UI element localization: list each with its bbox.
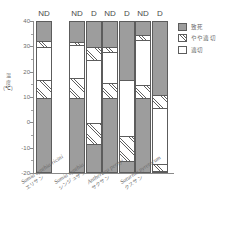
legend-swatch-suitable [178, 46, 187, 54]
bar-segment-divider [37, 47, 51, 48]
bar-segment-suitable [70, 45, 84, 78]
stacked-bar [102, 21, 118, 173]
bar-segment-lethal [103, 22, 117, 47]
bar-segment-suitable [120, 80, 134, 136]
bar-segment-divider [153, 95, 167, 96]
bar-segment-partial [103, 83, 117, 98]
stacked-bar [69, 21, 85, 173]
legend-label: 適切 [191, 47, 203, 53]
bar-segment-divider [70, 98, 84, 99]
bar-header-d: D [149, 9, 171, 18]
y-axis-minor-tick [31, 34, 33, 35]
bar-segment-divider [103, 47, 117, 48]
legend-swatch-lethal [178, 23, 187, 31]
y-axis-minor-tick [31, 135, 33, 136]
bar-segment-divider [70, 45, 84, 46]
bar-segment-lethal [87, 144, 101, 173]
stacked-bar [119, 21, 135, 173]
plot-area [34, 21, 174, 173]
bar-segment-divider [153, 108, 167, 109]
bar-segment-divider [37, 98, 51, 99]
bar-segment-lethal [37, 22, 51, 41]
y-axis-tick-label: 40 [12, 18, 30, 24]
y-axis-tick-mark [30, 173, 33, 174]
bar-segment-divider [120, 136, 134, 137]
y-axis-tick-label: -10 [12, 145, 30, 151]
bar-segment-divider [70, 42, 84, 43]
y-axis-tick-mark [30, 21, 33, 22]
y-axis-tick-label: 10 [12, 94, 30, 100]
bar-segment-partial [87, 123, 101, 143]
chart-figure: 温 度 (℃) -20-10010203040 NDNDDNDDNDD Sami… [0, 0, 225, 229]
bar-segment-suitable [103, 52, 117, 82]
chart-legend: 致死やや適切適切 [178, 21, 224, 56]
bar-segment-divider [120, 80, 134, 81]
bar-segment-partial [37, 80, 51, 98]
y-axis-tick-labels: -20-10010203040 [12, 16, 30, 178]
bar-segment-partial [153, 95, 167, 108]
y-axis-tick-mark [30, 72, 33, 73]
y-axis-minor-tick [31, 160, 33, 161]
bar-segment-divider [87, 47, 101, 48]
stacked-bar [36, 21, 52, 173]
bar-segment-divider [136, 85, 150, 86]
bar-segment-lethal [136, 22, 150, 35]
bar-segment-suitable [37, 47, 51, 80]
bar-segment-divider [37, 41, 51, 42]
y-axis-tick-label: 20 [12, 69, 30, 75]
y-axis-tick-mark [30, 122, 33, 123]
bar-segment-divider [37, 80, 51, 81]
y-axis-minor-tick [31, 84, 33, 85]
bar-segment-lethal [87, 22, 101, 47]
bar-segment-divider [136, 35, 150, 36]
legend-item-suitable: 適切 [178, 44, 224, 55]
y-axis-minor-tick [31, 110, 33, 111]
bar-segment-divider [87, 123, 101, 124]
bar-segment-divider [136, 98, 150, 99]
stacked-bar [152, 21, 168, 173]
bar-segment-lethal [120, 22, 134, 80]
bar-segment-lethal [70, 22, 84, 42]
bar-segment-partial [70, 78, 84, 98]
bar-segment-divider [103, 98, 117, 99]
bar-segment-suitable [87, 60, 101, 123]
bar-segment-divider [103, 52, 117, 53]
stacked-bar [86, 21, 102, 173]
y-axis-tick-label: 30 [12, 43, 30, 49]
stacked-bar [135, 21, 151, 173]
legend-item-partial: やや適切 [178, 33, 224, 44]
y-axis-tick-mark [30, 148, 33, 149]
bar-segment-divider [103, 83, 117, 84]
legend-label: やや適切 [191, 35, 216, 41]
legend-swatch-partial [178, 34, 187, 42]
bar-segment-suitable [136, 40, 150, 86]
bar-segment-divider [87, 144, 101, 145]
y-axis-tick-label: 0 [12, 119, 30, 125]
legend-item-lethal: 致死 [178, 21, 224, 32]
y-axis-minor-tick [31, 59, 33, 60]
bar-header-nd: ND [33, 9, 55, 18]
bar-segment-lethal [153, 22, 167, 95]
bar-segment-divider [136, 40, 150, 41]
y-axis-tick-mark [30, 46, 33, 47]
bar-segment-partial [136, 85, 150, 98]
legend-label: 致死 [191, 24, 203, 30]
y-axis-tick-mark [30, 97, 33, 98]
bar-segment-partial [87, 47, 101, 60]
bar-segment-divider [70, 78, 84, 79]
bar-segment-divider [87, 60, 101, 61]
